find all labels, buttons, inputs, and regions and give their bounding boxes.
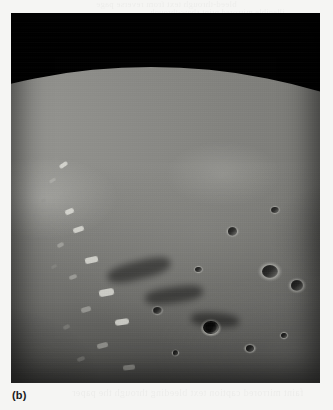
foreground-crater — [193, 265, 204, 274]
foreground-crater — [287, 277, 307, 294]
foreground-crater — [171, 349, 180, 357]
showthrough-text-bottom: faint mirrored caption text bleeding thr… — [72, 387, 303, 398]
foreground-crater — [243, 343, 257, 354]
photograph-content — [11, 13, 320, 383]
book-page: bleed-through text from reverse page ill… — [0, 0, 333, 410]
foreground-crater — [279, 331, 289, 340]
foreground-crater — [257, 261, 283, 282]
foreground-crater — [269, 205, 281, 215]
foreground-crater — [225, 225, 240, 238]
foreground-crater — [151, 305, 164, 316]
figure-caption-label: (b) — [12, 389, 27, 401]
figure-photograph — [11, 13, 320, 383]
